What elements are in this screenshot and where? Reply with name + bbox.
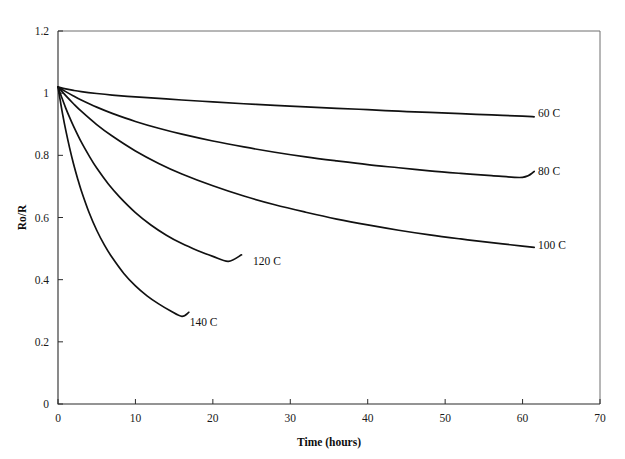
series-label-60-c: 60 C bbox=[538, 107, 560, 119]
y-tick-label: 0.2 bbox=[35, 336, 50, 348]
x-tick-label: 10 bbox=[130, 412, 142, 424]
series-label-100-c: 100 C bbox=[538, 239, 566, 251]
y-tick-label: 1 bbox=[43, 87, 49, 99]
x-tick-label: 0 bbox=[55, 412, 61, 424]
series-label-120-c: 120 C bbox=[253, 255, 281, 267]
y-axis-title: Ro/R bbox=[16, 204, 28, 230]
x-tick-label: 40 bbox=[362, 412, 374, 424]
chart-figure: 01020304050607000.20.40.60.811.2 60 C80 … bbox=[0, 0, 625, 459]
x-tick-label: 70 bbox=[594, 412, 606, 424]
x-tick-label: 60 bbox=[517, 412, 529, 424]
y-tick-label: 0.4 bbox=[35, 274, 50, 286]
series-label-140-c: 140 C bbox=[190, 316, 218, 328]
x-tick-label: 20 bbox=[207, 412, 219, 424]
series-label-80-c: 80 C bbox=[538, 165, 560, 177]
y-tick-label: 0 bbox=[43, 398, 49, 410]
curve-60-c bbox=[58, 87, 534, 117]
x-tick-label: 30 bbox=[285, 412, 297, 424]
y-tick-label: 0.8 bbox=[35, 149, 50, 161]
data-curves bbox=[58, 87, 534, 316]
x-axis-title: Time (hours) bbox=[297, 436, 361, 449]
axis-tick-labels: 01020304050607000.20.40.60.811.2 bbox=[35, 25, 606, 424]
x-tick-label: 50 bbox=[439, 412, 451, 424]
curve-80-c bbox=[58, 87, 534, 178]
curve-100-c bbox=[58, 87, 534, 247]
y-tick-label: 1.2 bbox=[35, 25, 50, 37]
series-labels: 60 C80 C100 C120 C140 C bbox=[190, 107, 567, 327]
y-tick-label: 0.6 bbox=[35, 212, 50, 224]
axis-titles: Time (hours)Ro/R bbox=[16, 204, 361, 449]
curve-120-c bbox=[58, 87, 242, 261]
plot-canvas: 01020304050607000.20.40.60.811.2 60 C80 … bbox=[0, 0, 625, 459]
